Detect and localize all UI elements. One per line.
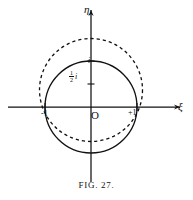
fraction-one-half: 1 2 xyxy=(69,70,74,84)
point-label-plus-one: +1 xyxy=(128,109,137,117)
figure-container: η ξ O -1 +1 i 1 2 i FIG. 27. xyxy=(0,0,193,200)
figure-caption: FIG. 27. xyxy=(0,180,193,190)
figure-drawing xyxy=(0,0,193,200)
origin-label: O xyxy=(91,110,99,121)
axis-label-xi: ξ xyxy=(178,101,183,112)
point-label-half-imaginary-unit: 1 2 i xyxy=(69,70,77,84)
point-label-imaginary-unit: i xyxy=(88,57,90,65)
half-i-unit-symbol: i xyxy=(75,73,77,81)
axis-label-eta: η xyxy=(84,4,89,15)
fraction-denominator: 2 xyxy=(69,77,74,83)
point-label-minus-one: -1 xyxy=(41,110,48,118)
